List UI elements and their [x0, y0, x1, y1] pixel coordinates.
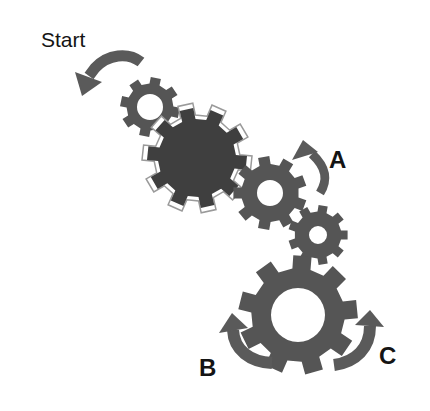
start-label: Start [41, 28, 85, 52]
label-a: A [329, 146, 346, 174]
gear-diagram-graphic [0, 0, 430, 411]
start-arrow-icon [75, 56, 141, 96]
gear-2-icon [233, 156, 306, 230]
label-c: C [379, 342, 396, 370]
gear-diagram: Start A B C [0, 0, 430, 411]
label-b: B [199, 354, 216, 382]
